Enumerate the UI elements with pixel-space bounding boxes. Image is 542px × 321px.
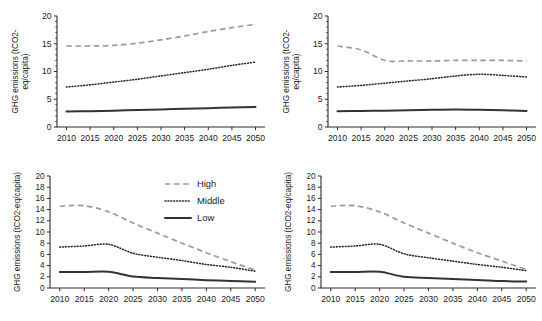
x-tick-label: 2050 xyxy=(246,133,265,143)
x-tick-label: 2035 xyxy=(172,294,191,304)
x-tick-label: 2025 xyxy=(128,133,147,143)
x-tick-label: 2030 xyxy=(419,294,438,304)
y-axis-label: GHG emissions (tCO2- xyxy=(11,29,20,113)
x-tick-label: 2010 xyxy=(328,133,347,143)
chart-svg-top-right: 0510152020102015202020252030203520402045… xyxy=(271,0,542,160)
x-tick-label: 2050 xyxy=(246,294,265,304)
y-tick-label: 5 xyxy=(47,94,52,104)
y-tick-label: 18 xyxy=(306,183,316,192)
x-tick-label: 2030 xyxy=(148,294,167,304)
x-tick-label: 2045 xyxy=(493,133,512,143)
figure-panel-grid: 0510152020102015202020252030203520402045… xyxy=(0,0,542,321)
y-axis-label: GHG emissions (tCO2-eq/capita) xyxy=(284,172,293,292)
y-tick-label: 8 xyxy=(311,239,316,248)
y-tick-label: 16 xyxy=(306,194,316,203)
series-line-low xyxy=(66,107,255,111)
chart-svg-bottom-right: 0246810121416182020102015202020252030203… xyxy=(271,160,542,321)
y-tick-label: 5 xyxy=(318,94,323,104)
x-tick-label: 2035 xyxy=(175,133,194,143)
x-tick-label: 2015 xyxy=(352,133,371,143)
x-tick-label: 2025 xyxy=(395,294,414,304)
y-tick-label: 20 xyxy=(35,172,45,181)
chart-panel-top-right: 0510152020102015202020252030203520402045… xyxy=(271,0,542,160)
chart-svg-top-left: 0510152020102015202020252030203520402045… xyxy=(0,0,271,160)
y-tick-label: 14 xyxy=(306,205,316,214)
series-line-middle xyxy=(60,244,255,271)
x-tick-label: 2010 xyxy=(57,133,76,143)
y-tick-label: 20 xyxy=(306,172,316,181)
chart-panel-bottom-right: 0246810121416182020102015202020252030203… xyxy=(271,160,542,321)
x-tick-label: 2015 xyxy=(75,294,94,304)
y-tick-label: 4 xyxy=(40,261,45,270)
chart-panel-bottom-left: 0246810121416182020102015202020252030203… xyxy=(0,160,271,321)
y-tick-label: 10 xyxy=(306,228,316,237)
y-tick-label: 0 xyxy=(318,122,323,132)
legend-label-low: Low xyxy=(197,212,214,223)
y-tick-label: 8 xyxy=(40,239,45,248)
x-tick-label: 2010 xyxy=(321,294,340,304)
legend-label-middle: Middle xyxy=(197,195,225,206)
y-axis-label: GHG emissions (tCO2- xyxy=(282,29,291,113)
legend-label-high: High xyxy=(197,178,216,189)
y-axis-label: eq/capita) xyxy=(21,53,30,89)
x-tick-label: 2030 xyxy=(151,133,170,143)
y-tick-label: 18 xyxy=(35,183,45,192)
x-tick-label: 2040 xyxy=(470,133,489,143)
x-tick-label: 2015 xyxy=(346,294,365,304)
y-tick-label: 0 xyxy=(47,122,52,132)
y-tick-label: 10 xyxy=(35,228,45,237)
y-tick-label: 14 xyxy=(35,205,45,214)
x-tick-label: 2035 xyxy=(446,133,465,143)
y-tick-label: 20 xyxy=(42,11,52,21)
y-tick-label: 15 xyxy=(313,39,323,49)
y-tick-label: 10 xyxy=(313,66,323,76)
y-tick-label: 4 xyxy=(311,261,316,270)
y-tick-label: 0 xyxy=(40,284,45,293)
y-tick-label: 20 xyxy=(313,11,323,21)
y-tick-label: 12 xyxy=(35,216,45,225)
series-line-middle xyxy=(66,62,255,87)
y-tick-label: 15 xyxy=(42,39,52,49)
series-line-high xyxy=(60,205,255,270)
series-line-high xyxy=(331,205,526,269)
x-tick-label: 2045 xyxy=(222,133,241,143)
series-line-low xyxy=(331,271,526,281)
x-tick-label: 2025 xyxy=(124,294,143,304)
x-tick-label: 2035 xyxy=(443,294,462,304)
x-tick-label: 2020 xyxy=(370,294,389,304)
x-tick-label: 2040 xyxy=(468,294,487,304)
x-tick-label: 2015 xyxy=(81,133,100,143)
x-tick-label: 2040 xyxy=(197,294,216,304)
y-tick-label: 6 xyxy=(40,250,45,259)
series-line-high xyxy=(337,46,526,61)
y-axis-label: eq/capita) xyxy=(292,53,301,89)
series-line-middle xyxy=(331,244,526,271)
x-tick-label: 2030 xyxy=(422,133,441,143)
chart-svg-bottom-left: 0246810121416182020102015202020252030203… xyxy=(0,160,271,321)
y-tick-label: 2 xyxy=(311,272,316,281)
y-tick-label: 10 xyxy=(42,66,52,76)
x-tick-label: 2045 xyxy=(221,294,240,304)
y-tick-label: 6 xyxy=(311,250,316,259)
x-tick-label: 2020 xyxy=(99,294,118,304)
series-line-low xyxy=(337,110,526,112)
series-line-low xyxy=(60,272,255,282)
y-tick-label: 2 xyxy=(40,272,45,281)
series-line-middle xyxy=(337,74,526,87)
x-tick-label: 2050 xyxy=(517,133,536,143)
x-tick-label: 2020 xyxy=(104,133,123,143)
x-tick-label: 2050 xyxy=(517,294,536,304)
x-tick-label: 2045 xyxy=(492,294,511,304)
y-tick-label: 0 xyxy=(311,284,316,293)
x-tick-label: 2040 xyxy=(199,133,218,143)
series-line-high xyxy=(66,24,255,46)
y-tick-label: 16 xyxy=(35,194,45,203)
y-tick-label: 12 xyxy=(306,216,316,225)
x-tick-label: 2010 xyxy=(50,294,69,304)
x-tick-label: 2025 xyxy=(399,133,418,143)
x-tick-label: 2020 xyxy=(375,133,394,143)
chart-panel-top-left: 0510152020102015202020252030203520402045… xyxy=(0,0,271,160)
y-axis-label: GHG emissions (tCO2-eq/capita) xyxy=(13,172,22,292)
